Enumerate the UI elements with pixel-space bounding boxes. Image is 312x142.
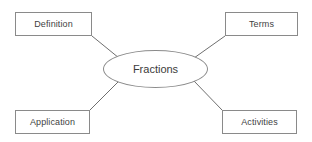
connector-application-to-center [90, 81, 119, 110]
node-activities[interactable]: Activities [222, 110, 297, 134]
node-activities-label: Activities [241, 118, 278, 127]
node-terms[interactable]: Terms [225, 12, 298, 36]
connector-terms-to-center [194, 36, 225, 58]
node-application[interactable]: Application [15, 110, 90, 134]
concept-map-diagram: Definition Terms Application Activities … [0, 0, 312, 142]
node-definition-label: Definition [34, 20, 73, 29]
connector-definition-to-center [92, 36, 119, 58]
node-application-label: Application [30, 118, 75, 127]
node-terms-label: Terms [249, 20, 274, 29]
node-definition[interactable]: Definition [15, 12, 92, 36]
connector-activities-to-center [194, 81, 222, 110]
node-center-label: Fractions [133, 64, 178, 75]
node-center-fractions[interactable]: Fractions [103, 50, 208, 88]
